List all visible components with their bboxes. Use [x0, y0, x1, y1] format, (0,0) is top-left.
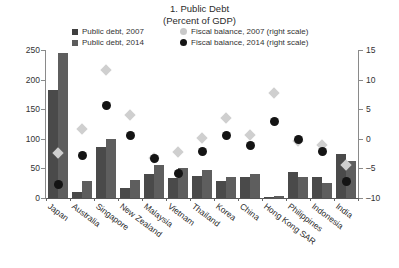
left-axis-tick-label: 150: [12, 104, 40, 114]
marker-fiscal-balance-2014: [222, 131, 231, 140]
bar-public-debt-2014: [322, 183, 332, 198]
marker-fiscal-balance-2007: [220, 112, 231, 123]
right-axis-tick-label: 10: [366, 75, 388, 85]
bar-public-debt-2007: [144, 174, 154, 198]
legend-item-public-debt-2007: Public debt, 2007: [72, 27, 180, 37]
left-axis-tick-label: 0: [12, 193, 40, 203]
bar-public-debt-2007: [72, 192, 82, 198]
legend-item-public-debt-2014: Public debt, 2014: [72, 38, 180, 48]
bar-public-debt-2014: [58, 53, 68, 198]
left-axis-tick-label: 100: [12, 134, 40, 144]
marker-fiscal-balance-2007: [244, 130, 255, 141]
circle-marker-icon: [180, 28, 187, 35]
right-axis-tick: [358, 139, 363, 140]
circle-marker-icon: [180, 39, 187, 46]
bar-public-debt-2014: [250, 174, 260, 198]
bar-public-debt-2014: [274, 196, 284, 198]
bar-public-debt-2014: [106, 139, 116, 198]
legend-item-fiscal-balance-2007: Fiscal balance, 2007 (right scale): [180, 27, 362, 37]
bar-public-debt-2014: [202, 170, 212, 198]
left-axis-tick: [41, 80, 46, 81]
left-axis: [45, 50, 46, 198]
chart-legend: Public debt, 2007 Fiscal balance, 2007 (…: [72, 26, 362, 48]
square-marker-icon: [72, 40, 78, 46]
marker-fiscal-balance-2007: [172, 146, 183, 157]
plot-area: 250200150100500151050–5–10: [46, 50, 358, 198]
left-axis-tick-label: 200: [12, 75, 40, 85]
marker-fiscal-balance-2014: [318, 147, 327, 156]
right-axis-tick-label: 5: [366, 104, 388, 114]
marker-fiscal-balance-2014: [246, 141, 255, 150]
marker-fiscal-balance-2014: [174, 169, 183, 178]
public-debt-chart: 1. Public Debt (Percent of GDP) Public d…: [0, 0, 399, 268]
left-axis-tick: [41, 50, 46, 51]
right-axis-tick: [358, 109, 363, 110]
x-axis-label-japan: Japan: [46, 201, 71, 223]
bar-public-debt-2007: [216, 181, 226, 198]
bar-public-debt-2014: [298, 177, 308, 198]
marker-fiscal-balance-2007: [268, 88, 279, 99]
right-axis: [358, 50, 359, 198]
right-axis-tick-label: 0: [366, 134, 388, 144]
left-axis-tick-label: 250: [12, 45, 40, 55]
left-axis-tick: [41, 139, 46, 140]
legend-label: Public debt, 2007: [82, 27, 144, 37]
left-axis-tick-label: 50: [12, 163, 40, 173]
marker-fiscal-balance-2014: [342, 177, 351, 186]
left-axis-tick: [41, 109, 46, 110]
bar-public-debt-2014: [154, 165, 164, 198]
bar-public-debt-2007: [96, 147, 106, 198]
marker-fiscal-balance-2014: [270, 117, 279, 126]
marker-fiscal-balance-2014: [102, 101, 111, 110]
bar-public-debt-2007: [168, 178, 178, 198]
legend-label: Fiscal balance, 2007 (right scale): [191, 27, 308, 37]
right-axis-tick-label: 15: [366, 45, 388, 55]
marker-fiscal-balance-2014: [198, 147, 207, 156]
marker-fiscal-balance-2007: [100, 64, 111, 75]
marker-fiscal-balance-2007: [124, 109, 135, 120]
bar-public-debt-2014: [130, 180, 140, 198]
marker-fiscal-balance-2014: [54, 180, 63, 189]
x-axis-label-china: China: [238, 201, 262, 222]
x-axis-labels: JapanAustraliaSingaporeNew ZealandMalays…: [46, 199, 366, 268]
bar-public-debt-2007: [120, 188, 130, 198]
bar-public-debt-2014: [82, 181, 92, 198]
marker-fiscal-balance-2007: [76, 124, 87, 135]
bar-public-debt-2007: [192, 176, 202, 198]
marker-fiscal-balance-2014: [150, 154, 159, 163]
right-axis-tick-label: –5: [366, 163, 388, 173]
legend-label: Fiscal balance, 2014 (right scale): [191, 38, 308, 48]
right-axis-tick: [358, 168, 363, 169]
square-marker-icon: [72, 29, 78, 35]
bar-public-debt-2007: [264, 197, 274, 198]
right-axis-tick: [358, 80, 363, 81]
marker-fiscal-balance-2014: [294, 135, 303, 144]
legend-item-fiscal-balance-2014: Fiscal balance, 2014 (right scale): [180, 38, 362, 48]
left-axis-tick: [41, 168, 46, 169]
legend-label: Public debt, 2014: [82, 38, 144, 48]
bar-public-debt-2007: [312, 177, 322, 198]
chart-title-block: 1. Public Debt (Percent of GDP): [0, 3, 399, 27]
marker-fiscal-balance-2014: [78, 151, 87, 160]
bar-public-debt-2007: [288, 172, 298, 198]
bar-public-debt-2007: [240, 177, 250, 198]
bar-public-debt-2014: [226, 177, 236, 198]
right-axis-tick-label: –10: [366, 193, 388, 203]
right-axis-tick: [358, 50, 363, 51]
marker-fiscal-balance-2007: [196, 132, 207, 143]
marker-fiscal-balance-2014: [126, 131, 135, 140]
page-title: 1. Public Debt: [0, 3, 399, 15]
